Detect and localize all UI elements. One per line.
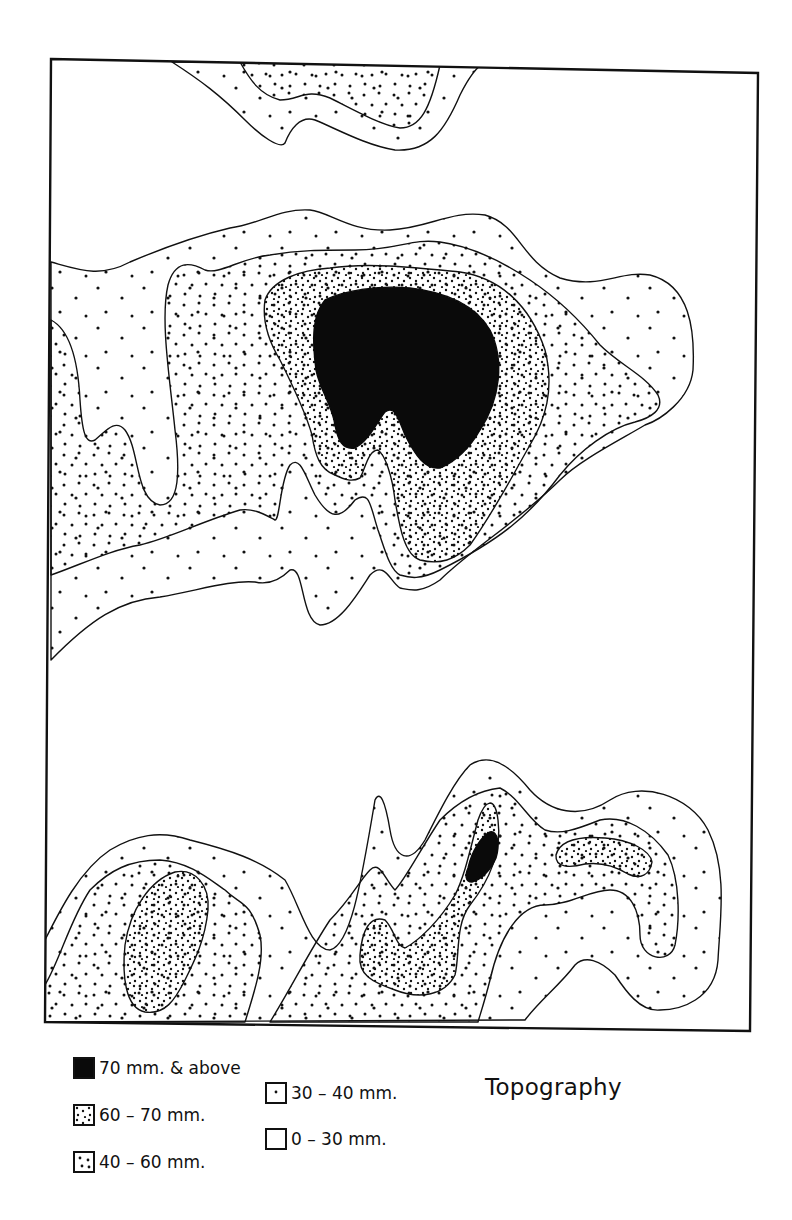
legend-item-0-30: 0 – 30 mm. <box>265 1128 387 1150</box>
legend-label: 30 – 40 mm. <box>291 1083 398 1103</box>
topography-map <box>0 0 792 1040</box>
blank-swatch-icon <box>265 1128 287 1150</box>
legend-item-30-40: 30 – 40 mm. <box>265 1082 398 1104</box>
legend-label: 0 – 30 mm. <box>291 1129 387 1149</box>
sparse-dot-swatch-icon <box>265 1082 287 1104</box>
contour-upper-main <box>51 210 693 660</box>
medium-stipple-swatch-icon <box>73 1151 95 1173</box>
map-title: Topography <box>485 1074 622 1100</box>
legend-item-40-60: 40 – 60 mm. <box>73 1151 206 1173</box>
solid-black-swatch-icon <box>73 1057 95 1079</box>
legend-label: 40 – 60 mm. <box>99 1152 206 1172</box>
legend-label: 70 mm. & above <box>99 1058 241 1078</box>
legend-item-70-above: 70 mm. & above <box>73 1057 241 1079</box>
dense-stipple-swatch-icon <box>73 1104 95 1126</box>
contour-lower <box>45 760 721 1022</box>
contour-top-north <box>172 62 486 150</box>
legend-item-60-70: 60 – 70 mm. <box>73 1104 206 1126</box>
legend-label: 60 – 70 mm. <box>99 1105 206 1125</box>
